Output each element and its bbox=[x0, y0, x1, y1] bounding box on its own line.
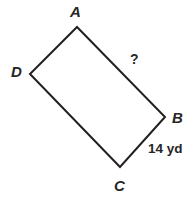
vertex-label-a: A bbox=[70, 4, 81, 19]
vertex-label-c: C bbox=[114, 178, 125, 193]
vertex-label-b: B bbox=[172, 110, 183, 125]
quadrilateral-shape bbox=[0, 0, 193, 212]
geometry-figure: A D B C ? 14 yd bbox=[0, 0, 193, 212]
side-measure-label: 14 yd bbox=[148, 142, 183, 156]
quadrilateral-outline bbox=[30, 27, 165, 167]
unknown-side-label: ? bbox=[130, 52, 139, 66]
quadrilateral-path bbox=[30, 27, 165, 167]
vertex-label-d: D bbox=[11, 64, 22, 79]
